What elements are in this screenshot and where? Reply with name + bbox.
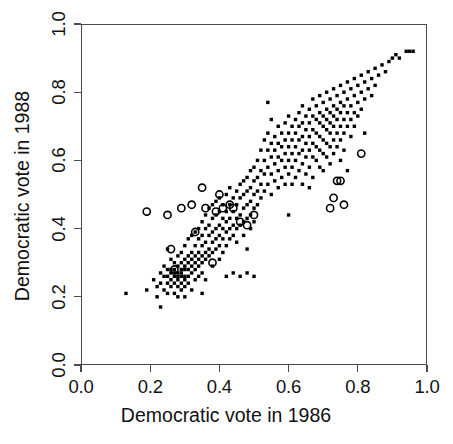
data-point-filled-square	[211, 251, 214, 254]
data-point-filled-square	[176, 254, 179, 257]
y-axis-tick	[74, 92, 81, 93]
x-axis-tick-label: 0.6	[276, 378, 301, 397]
data-point-filled-square	[176, 278, 179, 281]
data-point-filled-square	[214, 247, 217, 250]
data-point-filled-square	[342, 91, 345, 94]
data-point-filled-square	[221, 251, 224, 254]
data-point-filled-square	[353, 77, 356, 80]
y-axis-tick-label: 0.2	[50, 284, 69, 310]
data-point-filled-square	[308, 166, 311, 169]
data-point-filled-square	[228, 237, 231, 240]
data-point-filled-square	[190, 251, 193, 254]
data-point-filled-square	[318, 148, 321, 151]
data-point-filled-square	[283, 152, 286, 155]
data-point-filled-square	[311, 128, 314, 131]
data-point-filled-square	[339, 84, 342, 87]
data-point-filled-square	[380, 63, 383, 66]
data-point-filled-square	[173, 281, 176, 284]
x-axis-title: Democratic vote in 1986	[121, 404, 331, 427]
data-point-filled-square	[301, 121, 304, 124]
data-point-filled-square	[273, 135, 276, 138]
data-point-filled-square	[190, 264, 193, 267]
data-point-filled-square	[287, 213, 290, 216]
data-point-filled-square	[238, 196, 241, 199]
x-axis-tick-label: 0.8	[345, 378, 370, 397]
data-point-filled-square	[328, 121, 331, 124]
data-point-filled-square	[318, 166, 321, 169]
data-point-filled-square	[155, 295, 158, 298]
data-point-filled-square	[200, 261, 203, 264]
data-point-filled-square	[353, 111, 356, 114]
data-point-filled-square	[270, 193, 273, 196]
data-point-filled-square	[256, 176, 259, 179]
data-point-filled-square	[342, 148, 345, 151]
data-point-filled-square	[318, 121, 321, 124]
x-axis-tick	[80, 365, 81, 372]
data-point-filled-square	[270, 142, 273, 145]
data-point-filled-square	[197, 275, 200, 278]
data-point-filled-square	[245, 271, 248, 274]
data-point-filled-square	[373, 67, 376, 70]
data-point-filled-square	[200, 254, 203, 257]
data-point-filled-square	[232, 223, 235, 226]
data-point-filled-square	[166, 275, 169, 278]
data-point-open-circle	[199, 184, 206, 191]
data-point-filled-square	[249, 186, 252, 189]
data-point-filled-square	[270, 118, 273, 121]
data-point-filled-square	[277, 186, 280, 189]
data-point-filled-square	[332, 152, 335, 155]
data-point-filled-square	[287, 114, 290, 117]
data-point-filled-square	[297, 111, 300, 114]
data-point-filled-square	[183, 278, 186, 281]
data-point-open-circle	[178, 205, 185, 212]
data-point-filled-square	[360, 108, 363, 111]
data-point-filled-square	[225, 220, 228, 223]
data-point-filled-square	[328, 97, 331, 100]
data-point-filled-square	[162, 275, 165, 278]
data-point-filled-square	[228, 186, 231, 189]
data-point-filled-square	[183, 268, 186, 271]
data-point-filled-square	[297, 152, 300, 155]
data-point-filled-square	[332, 125, 335, 128]
data-point-filled-square	[180, 275, 183, 278]
data-point-filled-square	[193, 244, 196, 247]
data-point-filled-square	[197, 258, 200, 261]
data-point-filled-square	[221, 227, 224, 230]
data-point-filled-square	[197, 251, 200, 254]
data-point-filled-square	[311, 114, 314, 117]
data-point-filled-square	[304, 142, 307, 145]
data-point-filled-square	[211, 217, 214, 220]
data-point-filled-square	[328, 131, 331, 134]
data-point-filled-square	[353, 94, 356, 97]
data-point-filled-square	[322, 138, 325, 141]
data-point-filled-square	[332, 138, 335, 141]
data-point-filled-square	[204, 213, 207, 216]
data-point-filled-square	[166, 292, 169, 295]
data-point-filled-square	[294, 131, 297, 134]
data-point-filled-square	[259, 169, 262, 172]
data-point-filled-square	[325, 91, 328, 94]
data-point-filled-square	[315, 118, 318, 121]
data-point-filled-square	[173, 261, 176, 264]
data-point-filled-square	[311, 142, 314, 145]
y-axis-tick-label: 0.4	[50, 216, 69, 242]
data-point-filled-square	[384, 70, 387, 73]
data-point-filled-square	[235, 227, 238, 230]
data-point-filled-square	[335, 131, 338, 134]
data-point-filled-square	[304, 128, 307, 131]
data-point-filled-square	[405, 50, 408, 53]
data-point-filled-square	[218, 223, 221, 226]
data-point-filled-square	[187, 268, 190, 271]
data-point-filled-square	[180, 261, 183, 264]
data-point-filled-square	[180, 271, 183, 274]
data-point-filled-square	[335, 118, 338, 121]
data-point-filled-square	[373, 84, 376, 87]
data-point-filled-square	[242, 206, 245, 209]
x-axis-tick	[288, 365, 289, 372]
data-point-filled-square	[335, 145, 338, 148]
data-point-filled-square	[124, 292, 127, 295]
x-axis-tick	[426, 365, 427, 372]
data-point-filled-square	[277, 142, 280, 145]
data-point-filled-square	[311, 176, 314, 179]
data-point-filled-square	[228, 217, 231, 220]
